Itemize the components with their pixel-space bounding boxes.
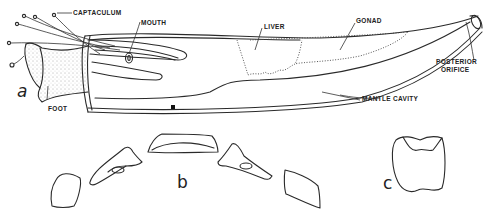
marker-point <box>171 105 175 109</box>
label-mantle-cavity: MANTLE CAVITY <box>362 95 419 102</box>
label-foot: FOOT <box>48 105 67 112</box>
panel-c-tooth: c <box>383 137 445 193</box>
panel-label-b: b <box>177 172 188 192</box>
panel-b-radula: b <box>51 134 320 208</box>
panel-a-animal: CAPTACULUM MOUTH LIVER GONAD POSTERIOR O… <box>7 9 482 114</box>
label-liver: LIVER <box>264 23 285 30</box>
label-orifice: ORIFICE <box>441 66 470 73</box>
panel-label-a: a <box>17 81 27 101</box>
scaphopod-anatomy-diagram: CAPTACULUM MOUTH LIVER GONAD POSTERIOR O… <box>0 0 483 218</box>
label-gonad: GONAD <box>356 17 382 24</box>
label-captaculum: CAPTACULUM <box>73 9 121 16</box>
label-mouth: MOUTH <box>141 19 166 26</box>
label-posterior: POSTERIOR <box>436 58 477 65</box>
panel-label-c: c <box>383 173 392 193</box>
